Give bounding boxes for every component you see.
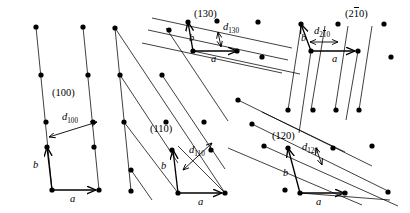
plane-family-100 <box>36 27 99 190</box>
d-spacing-label-100: d100 <box>62 112 78 125</box>
miller-label-130: (130) <box>194 9 217 20</box>
b-vector-120 <box>288 148 300 193</box>
lattice-point <box>333 107 338 112</box>
a-vector-label-130: a <box>211 54 216 65</box>
miller-label-110: (110) <box>150 124 172 135</box>
lattice-point <box>112 25 117 30</box>
b-vector-100 <box>47 147 52 190</box>
b-vector-110 <box>173 150 178 193</box>
lattice-point <box>43 119 48 124</box>
lattice-points-group <box>33 18 393 195</box>
lattice-point <box>128 188 133 193</box>
b-vector-label-210bar: b <box>301 33 306 44</box>
lattice-point <box>385 189 390 194</box>
lattice-point <box>85 72 90 77</box>
lattice-point <box>388 54 393 59</box>
lattice-point <box>159 72 164 77</box>
lattice-point <box>166 27 171 32</box>
lattice-point <box>282 187 287 192</box>
d-spacing-label-110: d110 <box>189 145 205 158</box>
lattice-point <box>33 24 38 29</box>
lattice-point <box>80 24 85 29</box>
lattice-point <box>91 144 96 149</box>
b-vector-label-110: b <box>161 161 166 172</box>
lattice-point <box>356 107 361 112</box>
lattice-point <box>249 121 254 126</box>
lattice-point <box>175 190 180 195</box>
lattice-point <box>44 144 49 149</box>
a-vector-label-210bar: a <box>332 54 337 65</box>
b-vector-label-120: b <box>283 168 288 179</box>
lattice-point <box>222 190 227 195</box>
lattice-point <box>208 147 213 152</box>
lattice-point <box>190 48 195 53</box>
lattice-point <box>96 187 101 192</box>
a-vector-label-120: a <box>316 197 321 208</box>
b-vector-label-130: b <box>189 33 194 44</box>
a-vector-label-110: a <box>198 197 203 208</box>
miller-label-120: (120) <box>272 131 295 142</box>
miller-label-210bar: (210) <box>345 9 368 20</box>
lattice-point <box>90 119 95 124</box>
lattice-point <box>121 119 126 124</box>
d-spacing-label-120: d120 <box>302 142 318 155</box>
lattice-point <box>38 72 43 77</box>
lattice-point <box>285 145 290 150</box>
lattice-point <box>169 147 174 152</box>
lattice-point <box>342 190 347 195</box>
lattice-point <box>335 21 340 26</box>
lattice-point <box>285 107 290 112</box>
figure-canvas <box>0 0 410 213</box>
lattice-point <box>355 48 360 53</box>
lattice-point <box>185 19 190 24</box>
lattice-point <box>128 167 133 172</box>
plane-lines-group <box>36 18 398 206</box>
lattice-planes-figure: (100) d100 b a (110) d110 b a (130) d130… <box>0 0 410 213</box>
a-vector-label-100: a <box>70 194 75 205</box>
lattice-point <box>259 54 264 59</box>
lattice-point <box>261 143 266 148</box>
lattice-point <box>369 143 374 148</box>
lattice-point <box>298 21 303 26</box>
miller-label-100: (100) <box>52 88 75 99</box>
d-spacing-label-130: d130 <box>223 22 239 35</box>
lattice-point <box>201 119 206 124</box>
d-spacing-label-210bar: d210 <box>314 26 330 39</box>
lattice-point <box>117 72 122 77</box>
lattice-point <box>381 21 386 26</box>
lattice-point <box>330 145 335 150</box>
lattice-point <box>234 48 239 53</box>
lattice-point <box>49 187 54 192</box>
lattice-point <box>255 19 260 24</box>
unit-cell-vectors <box>47 22 355 193</box>
b-vector-label-100: b <box>33 160 38 171</box>
lattice-point <box>235 97 240 102</box>
lattice-point <box>310 107 315 112</box>
lattice-point <box>308 48 313 53</box>
lattice-point <box>297 190 302 195</box>
